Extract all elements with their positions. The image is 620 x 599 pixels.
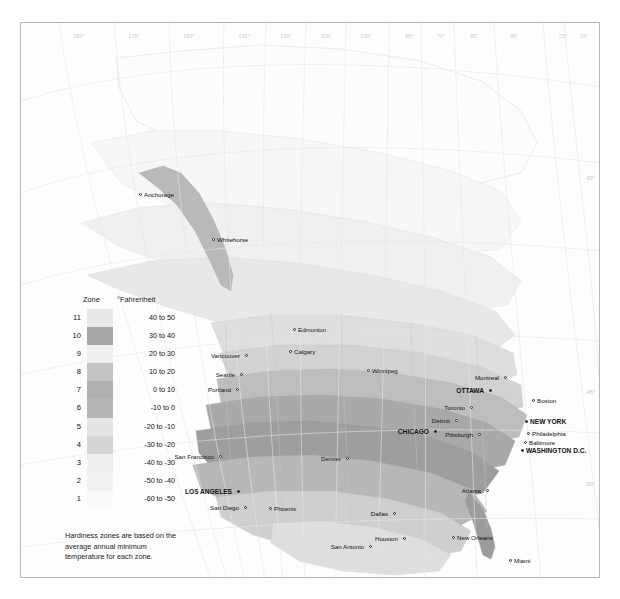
city-label: Winnipeg <box>372 367 398 374</box>
legend-zone-number: 7 <box>65 385 81 394</box>
legend-color-swatch <box>87 327 113 345</box>
city-dot-icon <box>525 420 528 423</box>
city-label: Baltimore <box>529 439 555 446</box>
legend-row: 1140 to 50 <box>65 309 193 327</box>
city-dot-icon <box>236 388 239 391</box>
legend-row: 70 to 10 <box>65 381 193 399</box>
city-dot-icon <box>486 489 489 492</box>
city-label: Pittsburgh <box>445 431 473 438</box>
longitude-label: 55° <box>470 33 478 39</box>
legend-header-zone: Zone <box>83 295 100 304</box>
legend-header: Zone °Fahrenheit <box>65 295 193 309</box>
city-label: Philadelphia <box>532 430 566 437</box>
city-label: San Antonio <box>331 543 364 550</box>
city-dot-icon <box>452 536 455 539</box>
legend-zone-number: 11 <box>65 313 81 322</box>
legend-temperature-range: 30 to 40 <box>119 331 175 340</box>
city-label: Denver <box>321 455 341 462</box>
legend-color-swatch <box>87 490 113 508</box>
city-dot-icon <box>240 373 243 376</box>
legend-color-swatch <box>87 381 113 399</box>
city-label: Phoenix <box>274 505 296 512</box>
city-label: Toronto <box>444 404 465 411</box>
hardiness-zone-legend: Zone °Fahrenheit 1140 to 501030 to 40920… <box>65 295 193 508</box>
legend-row: 5-20 to -10 <box>65 418 193 436</box>
longitude-label: 160° <box>183 33 194 39</box>
legend-color-swatch <box>87 363 113 381</box>
city-dot-icon <box>509 559 512 562</box>
city-label: Calgary <box>294 348 315 355</box>
legend-row: 3-40 to -30 <box>65 454 193 472</box>
city-dot-icon <box>403 537 406 540</box>
city-dot-icon <box>489 389 492 392</box>
city-dot-icon <box>367 369 370 372</box>
city-label: Edmonton <box>298 326 326 333</box>
legend-header-unit: °Fahrenheit <box>117 295 155 304</box>
legend-row: 1030 to 40 <box>65 327 193 345</box>
latitude-label: 45° <box>587 389 595 395</box>
city-dot-icon <box>455 419 458 422</box>
city-dot-icon <box>478 433 481 436</box>
legend-color-swatch <box>87 436 113 454</box>
city-dot-icon <box>504 376 507 379</box>
longitude-label: 130° <box>280 33 291 39</box>
legend-zone-number: 6 <box>65 403 81 412</box>
legend-row-list: 1140 to 501030 to 40920 to 30810 to 2070… <box>65 309 193 508</box>
longitude-label: 180° <box>73 33 84 39</box>
city-label: San Diego <box>210 504 239 511</box>
map-frame: 180° 170° 160° 145° 130° 115° 100° 85° 7… <box>20 22 600 578</box>
longitude-label: 115° <box>321 33 332 39</box>
legend-row: 1-60 to -50 <box>65 490 193 508</box>
city-dot-icon <box>393 512 396 515</box>
legend-row: 810 to 20 <box>65 363 193 381</box>
city-label: Detroit <box>432 417 450 424</box>
city-dot-icon <box>139 193 142 196</box>
city-dot-icon <box>527 432 530 435</box>
legend-temperature-range: 40 to 50 <box>119 313 175 322</box>
city-dot-icon <box>521 449 524 452</box>
city-label: New Orleans <box>457 534 493 541</box>
city-label: Boston <box>537 397 556 404</box>
city-dot-icon <box>369 545 372 548</box>
legend-temperature-range: -60 to -50 <box>119 494 175 503</box>
city-dot-icon <box>237 490 240 493</box>
longitude-label: 70° <box>437 33 445 39</box>
longitude-label: 85° <box>405 33 413 39</box>
city-label: NEW YORK <box>530 418 566 425</box>
legend-temperature-range: 10 to 20 <box>119 367 175 376</box>
legend-zone-number: 8 <box>65 367 81 376</box>
city-label: Houston <box>375 535 398 542</box>
city-dot-icon <box>244 506 247 509</box>
legend-temperature-range: -10 to 0 <box>119 403 175 412</box>
legend-zone-number: 4 <box>65 440 81 449</box>
city-label: Montreal <box>475 374 499 381</box>
legend-color-swatch <box>87 345 113 363</box>
legend-zone-number: 10 <box>65 331 81 340</box>
city-dot-icon <box>524 441 527 444</box>
city-dot-icon <box>289 350 292 353</box>
city-dot-icon <box>532 399 535 402</box>
city-label: Seattle <box>216 371 235 378</box>
legend-row: 920 to 30 <box>65 345 193 363</box>
legend-temperature-range: -20 to -10 <box>119 422 175 431</box>
legend-temperature-range: 20 to 30 <box>119 349 175 358</box>
city-dot-icon <box>470 406 473 409</box>
legend-row: 4-30 to -20 <box>65 436 193 454</box>
city-dot-icon <box>434 430 437 433</box>
longitude-label: 170° <box>128 33 139 39</box>
city-label: Whitehorse <box>217 236 248 243</box>
longitude-label: 40° <box>510 33 518 39</box>
city-label: OTTAWA <box>456 387 484 394</box>
legend-zone-number: 1 <box>65 494 81 503</box>
legend-row: 2-50 to -40 <box>65 472 193 490</box>
legend-row: 6-10 to 0 <box>65 399 193 417</box>
legend-color-swatch <box>87 454 113 472</box>
legend-zone-number: 9 <box>65 349 81 358</box>
city-label: Portland <box>208 386 231 393</box>
city-dot-icon <box>219 455 222 458</box>
legend-color-swatch <box>87 309 113 327</box>
legend-temperature-range: 0 to 10 <box>119 385 175 394</box>
city-dot-icon <box>212 238 215 241</box>
longitude-label: 145° <box>238 33 249 39</box>
longitude-label: 15° <box>580 33 588 39</box>
